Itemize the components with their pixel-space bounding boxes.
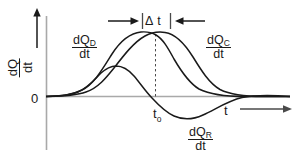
curve-label-charge-numerator: dQC [206,34,231,48]
y-axis-arrow-icon [33,8,40,48]
curve-label-resultant-numerator: dQR [188,126,213,140]
y-axis-label-numerator: dQ [6,58,20,77]
curve-label-charge-denominator: dt [206,48,231,61]
x-axis-label: t [224,104,228,117]
curve-label-resultant-denominator: dt [188,140,213,153]
y-axis-label: dQ dt [6,58,34,77]
interval-label: Δ t [145,15,161,28]
y-axis-label-denominator: dt [20,58,34,77]
t0-label: to [153,107,161,123]
curve-label-charge-subscript: C [224,38,230,48]
curve-label-charge: dQC dt [206,34,231,61]
figure-canvas: dQ dt 0 dQD dt dQC dt dQR dt Δ t to t [0,0,297,156]
interval-arrow-left-icon [108,17,139,24]
curve-label-discharge: dQD dt [72,34,97,61]
interval-arrow-right-icon [175,17,205,24]
curve-label-discharge-numerator: dQD [72,34,97,48]
curve-label-discharge-subscript: D [90,38,96,48]
x-axis-arrow-icon [240,105,292,112]
curve-label-discharge-denominator: dt [72,48,97,61]
t0-label-subscript: o [157,114,162,124]
origin-label: 0 [31,92,38,105]
curve-label-resultant: dQR dt [188,126,213,153]
curve-label-resultant-subscript: R [206,130,212,140]
